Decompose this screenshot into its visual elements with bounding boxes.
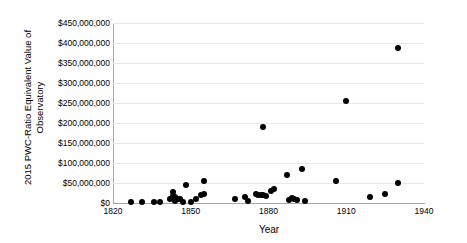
data-point	[157, 199, 163, 205]
data-point	[260, 124, 266, 130]
y-tick-label: $250,000,000	[2, 98, 110, 108]
data-point	[395, 180, 401, 186]
y-tick-label: $50,000,000	[2, 178, 110, 188]
scatter-chart: 2015 PWC-Ratio Equivalent Value of Obser…	[0, 0, 467, 243]
y-tick-label: $300,000,000	[2, 78, 110, 88]
data-point	[263, 193, 269, 199]
data-point	[201, 191, 207, 197]
gridline	[113, 43, 424, 44]
y-tick-label: $100,000,000	[2, 158, 110, 168]
data-point	[271, 186, 277, 192]
data-point	[128, 199, 134, 205]
gridline	[113, 83, 424, 84]
data-point	[139, 199, 145, 205]
y-tick-label: $150,000,000	[2, 138, 110, 148]
gridline	[113, 163, 424, 164]
y-tick-label: $200,000,000	[2, 118, 110, 128]
data-point	[367, 194, 373, 200]
y-tick-label: $450,000,000	[2, 18, 110, 28]
data-point	[382, 191, 388, 197]
x-tick-label: 1910	[326, 206, 366, 216]
data-point	[299, 166, 305, 172]
data-point	[294, 197, 300, 203]
data-point	[245, 198, 251, 204]
data-point	[180, 199, 186, 205]
gridline	[113, 143, 424, 144]
x-tick-label: 1880	[249, 206, 289, 216]
gridline	[113, 23, 424, 24]
x-tick-label: 1820	[93, 206, 133, 216]
data-point	[284, 172, 290, 178]
x-tick-label: 1850	[171, 206, 211, 216]
data-point	[183, 182, 189, 188]
data-point	[333, 178, 339, 184]
plot-area	[113, 23, 424, 203]
data-point	[232, 196, 238, 202]
data-point	[395, 45, 401, 51]
x-tick-label: 1940	[404, 206, 444, 216]
gridline	[113, 63, 424, 64]
y-tick-label: $350,000,000	[2, 58, 110, 68]
gridline	[113, 103, 424, 104]
y-tick-label: $400,000,000	[2, 38, 110, 48]
data-point	[193, 196, 199, 202]
data-point	[302, 198, 308, 204]
gridline	[113, 183, 424, 184]
gridline	[113, 123, 424, 124]
x-axis-title: Year	[113, 224, 425, 235]
